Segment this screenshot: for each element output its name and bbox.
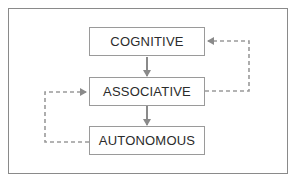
stage-cognitive-label: COGNITIVE xyxy=(110,34,183,49)
stage-cognitive: COGNITIVE xyxy=(89,27,205,56)
stage-associative-label: ASSOCIATIVE xyxy=(103,84,191,99)
stage-autonomous: AUTONOMOUS xyxy=(89,126,205,155)
dashed-arrow-associative-to-cognitive xyxy=(205,41,249,91)
dashed-arrow-autonomous-to-associative xyxy=(45,92,89,142)
stage-associative: ASSOCIATIVE xyxy=(89,77,205,106)
stage-autonomous-label: AUTONOMOUS xyxy=(99,133,195,148)
